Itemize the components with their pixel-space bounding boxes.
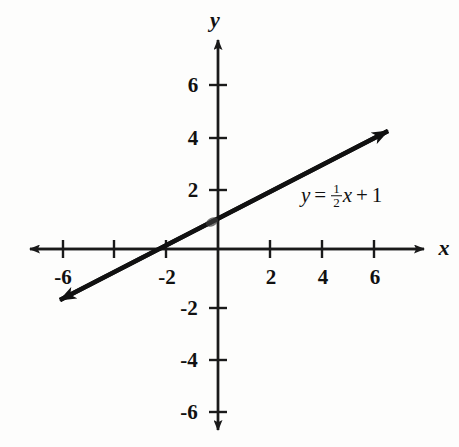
y-tick-label-2: 2: [188, 180, 199, 201]
equation-label: y = 1 2 x + 1: [301, 182, 382, 210]
graph-figure: y x -6 -2 2 4 6 6 4 2 -2 -4 -6 y = 1 2 x…: [0, 0, 459, 447]
y-tick-label-neg6: -6: [180, 402, 198, 423]
fraction-denominator: 2: [331, 196, 342, 210]
equation-lhs: y: [301, 186, 310, 207]
x-tick-label-2: 2: [266, 267, 277, 288]
x-axis-label: x: [439, 237, 450, 259]
y-tick-label-neg4: -4: [180, 350, 198, 371]
function-line: [60, 131, 388, 300]
coordinate-plane-svg: [0, 0, 459, 447]
fraction-numerator: 1: [331, 182, 342, 195]
y-tick-label-6: 6: [188, 75, 199, 96]
equation-variable: x: [343, 186, 352, 207]
equation-constant: 1: [372, 186, 383, 207]
equation-plus: +: [356, 186, 368, 207]
x-tick-label-neg6: -6: [54, 267, 72, 288]
x-tick-label-neg2: -2: [158, 267, 176, 288]
x-tick-label-4: 4: [318, 267, 329, 288]
equation-equals: =: [314, 186, 326, 207]
equation-fraction: 1 2: [331, 182, 342, 210]
y-tick-label-4: 4: [188, 128, 199, 149]
y-axis-label: y: [210, 9, 220, 31]
y-tick-label-neg2: -2: [180, 298, 198, 319]
x-tick-label-6: 6: [370, 267, 381, 288]
